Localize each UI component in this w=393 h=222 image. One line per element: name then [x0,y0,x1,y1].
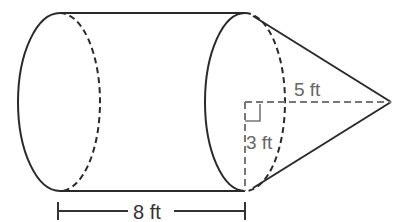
cone-bottom-slant [253,102,391,188]
cylinder-length-label: 8 ft [133,201,161,222]
right-base-front-arc [205,13,245,191]
cone-top-slant [253,16,391,102]
right-angle-marker [245,104,260,121]
radius-label: 3 ft [246,132,273,153]
cylinder-cone-diagram: 5 ft 3 ft 8 ft [0,0,393,222]
left-base-hidden-arc [60,13,100,191]
cone-height-label: 5 ft [294,79,321,100]
left-base-front-arc [18,13,60,191]
